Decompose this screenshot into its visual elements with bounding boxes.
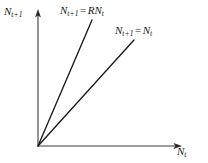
line-steep-label-lhs-subscript: t+1 bbox=[67, 9, 78, 18]
line-unity-label: Nt+1=Nt bbox=[115, 25, 152, 37]
diagram-vector-layer bbox=[0, 0, 208, 163]
line-unity bbox=[38, 40, 134, 146]
x-axis-label: Nt bbox=[177, 146, 187, 158]
line-steep-label-equals: = bbox=[79, 4, 88, 16]
line-unity-label-equals: = bbox=[134, 24, 143, 36]
line-steep-label-rhs-var: N bbox=[95, 4, 102, 16]
line-unity-label-lhs-subscript: t+1 bbox=[122, 29, 133, 38]
line-steep bbox=[38, 20, 92, 146]
line-steep-label-rhs-subscript: t bbox=[102, 9, 104, 18]
y-axis-label-subscript: t+1 bbox=[11, 10, 22, 19]
line-steep-label: Nt+1=RNt bbox=[60, 5, 104, 17]
line-steep-label-coefficient: R bbox=[88, 4, 95, 16]
diagram-canvas: Nt+1 Nt Nt+1=RNt Nt+1=Nt bbox=[0, 0, 208, 163]
line-unity-label-rhs-var: N bbox=[143, 24, 150, 36]
y-axis-label: Nt+1 bbox=[4, 6, 23, 18]
x-axis-label-subscript: t bbox=[184, 150, 186, 159]
line-unity-label-rhs-subscript: t bbox=[150, 29, 152, 38]
